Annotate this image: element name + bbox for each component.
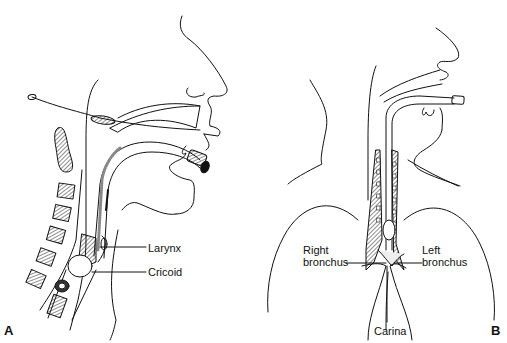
- panel-a-drawing: [26, 16, 227, 340]
- label-larynx: Larynx: [148, 242, 181, 254]
- panel-b-drawing: [268, 28, 495, 340]
- label-left-bronchus: Left bronchus: [422, 244, 467, 268]
- label-carina: Carina: [374, 325, 406, 337]
- label-right-bronchus-line1: Right: [303, 244, 348, 256]
- panel-label-a: A: [4, 323, 13, 338]
- label-left-bronchus-line2: bronchus: [422, 256, 467, 268]
- illustration-canvas: [0, 0, 507, 343]
- panel-label-b: B: [491, 323, 500, 338]
- vertebrae: [26, 127, 75, 288]
- label-left-bronchus-line1: Left: [422, 244, 467, 256]
- label-cricoid: Cricoid: [148, 266, 182, 278]
- label-right-bronchus: Right bronchus: [303, 244, 348, 268]
- label-right-bronchus-line2: bronchus: [303, 256, 348, 268]
